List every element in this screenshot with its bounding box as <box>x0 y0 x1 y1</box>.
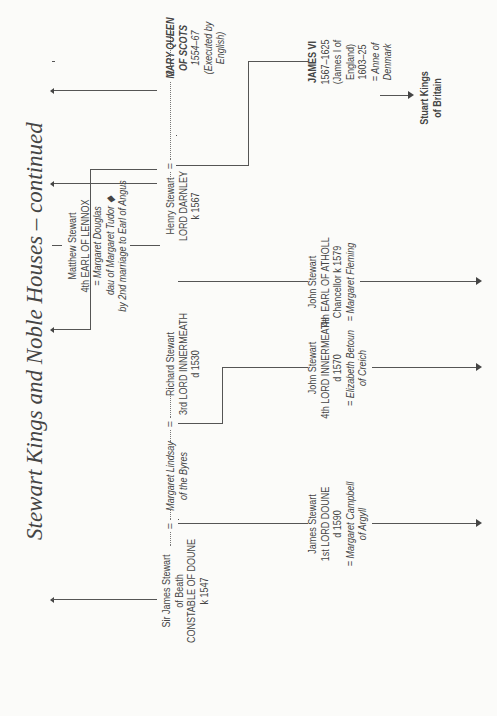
line <box>248 62 249 166</box>
arrow-icon <box>50 88 54 94</box>
line <box>178 519 179 520</box>
line <box>52 245 62 246</box>
line <box>52 90 157 91</box>
marriage-line <box>170 82 171 160</box>
person-margaret-lindsay: Margaret Lindsayof the Byres <box>164 441 189 511</box>
marriage-symbol: = <box>164 523 176 529</box>
person-james-vi: JAMES VI1567–1625 (James I ofEngland)160… <box>306 39 394 84</box>
line <box>90 169 157 170</box>
marriage-line <box>170 510 171 520</box>
person-john-stewart-innermeath: John Stewart4th LORD INNERMEATHd 1570 = … <box>306 317 369 419</box>
person-mary-queen-of-scots: MARY QUEENOF SCOTS 1554–67(Executed byEn… <box>164 18 227 79</box>
chart-title: Stewart Kings and Noble Houses – continu… <box>22 180 48 540</box>
person-john-stewart-atholl: John Stewart4th EARL OF ATHOLLChancellor… <box>306 237 356 327</box>
arrow-icon <box>476 520 482 528</box>
line <box>176 135 177 136</box>
marriage-line <box>170 430 171 442</box>
arrow-icon <box>50 597 54 603</box>
person-matthew-stewart: Matthew Stewart4th EARL OF LENNOX = Marg… <box>66 180 129 312</box>
arrow-icon <box>50 327 54 333</box>
arrow-icon <box>476 364 482 372</box>
line <box>178 423 222 424</box>
arrow-icon <box>476 278 482 286</box>
line <box>248 61 308 62</box>
line <box>176 165 248 166</box>
line <box>178 523 308 524</box>
line <box>130 245 160 246</box>
line <box>372 523 478 524</box>
line <box>222 368 223 424</box>
line <box>52 329 90 330</box>
arrow-icon <box>408 92 414 100</box>
marriage-symbol: = <box>164 421 176 427</box>
person-james-stewart-beath: Sir James Stewartof Beath CONSTABLE OF D… <box>160 539 210 643</box>
line <box>372 367 478 368</box>
marriage-line <box>170 532 171 546</box>
marriage-symbol: = <box>164 163 176 169</box>
line <box>380 95 410 96</box>
genealogy-chart: Stewart Kings and Noble Houses – continu… <box>0 0 497 716</box>
person-henry-darnley: Henry StewartLORD DARNLEYk 1567 <box>164 171 202 241</box>
person-richard-stewart: Richard Stewart3rd LORD INNERMEATHd 1530 <box>164 313 202 415</box>
arrow-icon <box>50 181 54 187</box>
line <box>52 599 157 600</box>
line <box>52 61 55 62</box>
stuart-kings-of-britain: Stuart Kingsof Britain <box>418 71 443 125</box>
line <box>360 281 478 282</box>
line <box>178 281 308 282</box>
person-james-stewart-doune: James Stewart1st LORD DOUNEd 1590 = Marg… <box>306 482 369 566</box>
marriage-line <box>170 172 171 180</box>
line <box>222 367 308 368</box>
